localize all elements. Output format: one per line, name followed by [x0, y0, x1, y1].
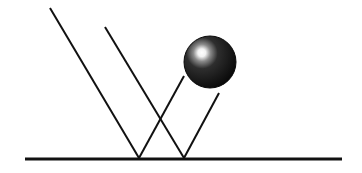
glossy-sphere	[184, 36, 236, 88]
incident-ray-2	[105, 27, 184, 158]
reflected-ray-2	[184, 93, 219, 158]
incident-ray-1	[50, 8, 139, 158]
incident-rays	[50, 8, 184, 158]
reflection-diagram	[0, 0, 362, 173]
